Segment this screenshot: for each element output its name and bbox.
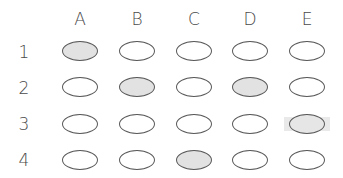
bubble-c1[interactable] [176,41,212,61]
empty-bubble-icon [119,150,155,170]
bubble-c4[interactable] [176,150,212,170]
column-label-b: B [131,11,142,28]
bubble-b1[interactable] [119,41,155,61]
empty-bubble-icon [289,77,325,97]
empty-bubble-icon [62,114,98,134]
bubble-c3[interactable] [176,114,212,134]
empty-bubble-icon [232,41,268,61]
bubble-d4[interactable] [232,150,268,170]
column-label-d: D [243,11,256,28]
row-label-1: 1 [19,44,30,61]
column-label-c: C [188,11,200,28]
empty-bubble-icon [62,150,98,170]
column-label-e: E [302,11,313,28]
filled-bubble-icon [289,114,325,134]
empty-bubble-icon [176,77,212,97]
filled-bubble-icon [119,77,155,97]
bubble-e4[interactable] [289,150,325,170]
bubble-d3[interactable] [232,114,268,134]
empty-bubble-icon [232,114,268,134]
bubble-a4[interactable] [62,150,98,170]
bubble-b2[interactable] [119,77,155,97]
empty-bubble-icon [289,41,325,61]
empty-bubble-icon [232,150,268,170]
bubble-c2[interactable] [176,77,212,97]
filled-bubble-icon [232,77,268,97]
row-label-4: 4 [19,152,30,169]
empty-bubble-icon [62,77,98,97]
row-label-2: 2 [19,80,30,97]
bubble-b4[interactable] [119,150,155,170]
bubble-d1[interactable] [232,41,268,61]
bubble-e2[interactable] [289,77,325,97]
column-label-a: A [74,11,86,28]
empty-bubble-icon [289,150,325,170]
bubble-e3[interactable] [289,114,325,134]
empty-bubble-icon [119,114,155,134]
bubble-d2[interactable] [232,77,268,97]
filled-bubble-icon [176,150,212,170]
empty-bubble-icon [176,41,212,61]
row-label-3: 3 [19,116,30,133]
bubble-b3[interactable] [119,114,155,134]
empty-bubble-icon [176,114,212,134]
empty-bubble-icon [119,41,155,61]
bubble-a3[interactable] [62,114,98,134]
filled-bubble-icon [62,41,98,61]
bubble-a2[interactable] [62,77,98,97]
bubble-a1[interactable] [62,41,98,61]
bubble-e1[interactable] [289,41,325,61]
